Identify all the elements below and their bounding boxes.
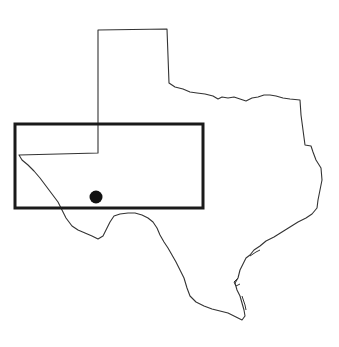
texas-map bbox=[0, 0, 339, 347]
texas-state-outline bbox=[19, 29, 322, 320]
coastal-islands bbox=[234, 250, 260, 310]
location-marker bbox=[90, 191, 103, 204]
highlight-box bbox=[15, 124, 203, 208]
